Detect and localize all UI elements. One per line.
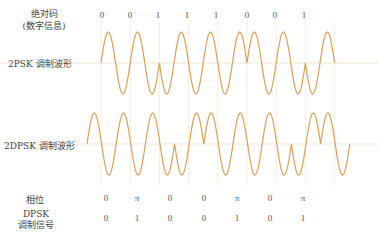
dpsk-signal-subtitle: 调制信号 xyxy=(14,220,58,231)
absolute-bit: 0 xyxy=(273,10,278,20)
absolute-bit: 1 xyxy=(156,10,161,20)
dpsk-signal-value: 1 xyxy=(235,213,240,223)
dpsk-signal-value: 1 xyxy=(135,213,140,223)
waveform-canvas xyxy=(0,0,378,240)
dpsk-signal-value: 0 xyxy=(268,213,273,223)
dpsk-signal-value: 0 xyxy=(202,213,207,223)
absolute-bit: 0 xyxy=(245,10,250,20)
phase-value: π xyxy=(135,193,140,203)
absolute-bit: 1 xyxy=(185,10,190,20)
absolute-code-title: 绝对码 xyxy=(14,8,74,20)
dpsk-signal-title: DPSK xyxy=(14,209,58,220)
dpsk-signal-value: 0 xyxy=(104,213,109,223)
absolute-bit: 1 xyxy=(214,10,219,20)
phase-value: π xyxy=(235,193,240,203)
dpsk-signal-value: 1 xyxy=(301,213,306,223)
absolute-code-label: 绝对码 (数字信息) xyxy=(14,8,74,32)
dpsk-signal-label: DPSK 调制信号 xyxy=(14,209,58,231)
dpsk-wave-label: 2DPSK 调制波形 xyxy=(4,139,75,152)
dpsk-signal-value: 0 xyxy=(168,213,173,223)
phase-label: 相位 xyxy=(26,193,44,206)
phase-value: 0 xyxy=(268,193,273,203)
phase-value: 0 xyxy=(202,193,207,203)
phase-value: π xyxy=(301,193,306,203)
phase-value: 0 xyxy=(168,193,173,203)
absolute-bit: 1 xyxy=(302,10,307,20)
bit-gridlines xyxy=(101,22,335,185)
absolute-bit: 0 xyxy=(128,10,133,20)
phase-value: 0 xyxy=(104,193,109,203)
absolute-bit: 0 xyxy=(100,10,105,20)
psk-wave-label: 2PSK 调制波形 xyxy=(8,57,72,70)
absolute-code-subtitle: (数字信息) xyxy=(14,20,74,32)
